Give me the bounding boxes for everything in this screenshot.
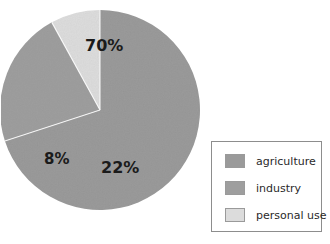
legend-label-personal-use: personal use — [256, 210, 326, 221]
pie-label-personal-use: 8% — [44, 152, 69, 167]
legend-label-industry: industry — [256, 183, 301, 194]
legend-label-agriculture: agriculture — [256, 156, 316, 167]
legend-swatch-personal-use — [225, 208, 245, 222]
legend-swatch-agriculture — [225, 154, 245, 168]
pie-chart: 70% 8% 22% — [1, 9, 201, 215]
chart-canvas: 70% 8% 22% agriculture industry personal… — [0, 0, 330, 244]
legend-item-personal-use[interactable]: personal use — [212, 203, 321, 227]
pie-label-industry: 22% — [101, 160, 139, 176]
legend-item-agriculture[interactable]: agriculture — [212, 149, 321, 173]
chart-legend: agriculture industry personal use — [211, 141, 322, 232]
legend-item-industry[interactable]: industry — [212, 176, 321, 200]
legend-swatch-industry — [225, 181, 245, 195]
pie-label-agriculture: 70% — [85, 38, 123, 54]
